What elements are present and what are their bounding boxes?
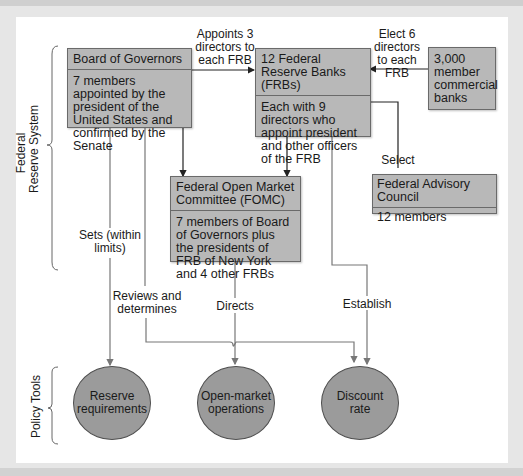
edge-label-appoints: Appoints 3 directors to each FRB xyxy=(195,28,255,67)
board-of-governors-box: Board of Governors 7 members appointed b… xyxy=(67,48,192,128)
tool-omo-label: Open-market operations xyxy=(198,390,274,416)
edge-label-reviews: Reviews and determines xyxy=(112,290,182,316)
edge-label-select: Select xyxy=(378,154,418,167)
member-banks-text: 3,000 member commercial banks xyxy=(434,52,498,105)
edge-label-establish: Establish xyxy=(340,298,394,311)
fomc-body: 7 members of Board of Governors plus the… xyxy=(171,211,300,286)
board-title: Board of Governors xyxy=(68,49,191,70)
frbs-body: Each with 9 directors who appoint presid… xyxy=(256,96,370,171)
tool-reserve-requirements: Reserve requirements xyxy=(73,366,151,440)
tool-reserve-label: Reserve requirements xyxy=(74,390,150,416)
fomc-title: Federal Open Market Committee (FOMC) xyxy=(171,177,300,211)
fomc-box: Federal Open Market Committee (FOMC) 7 m… xyxy=(170,176,301,262)
advisory-council-box: Federal Advisory Council 12 members xyxy=(372,174,497,214)
advisory-title: Federal Advisory Council xyxy=(373,175,496,208)
member-banks-box: 3,000 member commercial banks xyxy=(428,47,496,110)
tool-discount-rate: Discount rate xyxy=(321,366,399,440)
frbs-title: 12 Federal Reserve Banks (FRBs) xyxy=(256,49,370,96)
frbs-box: 12 Federal Reserve Banks (FRBs) Each wit… xyxy=(255,48,371,137)
board-body: 7 members appointed by the president of … xyxy=(68,70,191,158)
group-label-policy-tools: Policy Tools xyxy=(30,367,43,447)
tool-open-market-operations: Open-market operations xyxy=(197,366,275,440)
advisory-body: 12 members xyxy=(373,208,496,227)
edge-label-sets: Sets (within limits) xyxy=(78,229,142,255)
group-label-federal-reserve-system: Federal Reserve System xyxy=(15,113,41,193)
edge-label-directs: Directs xyxy=(210,300,260,313)
tool-discount-label: Discount rate xyxy=(322,390,398,416)
edge-label-elect: Elect 6 directors to each FRB xyxy=(368,28,426,80)
